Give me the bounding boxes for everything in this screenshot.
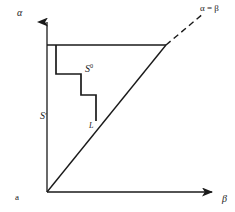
outer-region-superscript: 0: [90, 62, 93, 69]
staircase-boundary: [56, 45, 96, 121]
origin-label: a: [15, 193, 19, 202]
boundary-point-label: L: [89, 122, 93, 130]
outer-region-label: S0: [85, 63, 93, 74]
diagonal-line-solid: [47, 45, 166, 192]
diagram-canvas: [0, 0, 235, 212]
diagonal-line-label: α = β: [200, 4, 219, 13]
figure-region-diagram: α β a α = β S0 S′ L: [0, 0, 235, 212]
beta-axis-label: β: [222, 194, 227, 204]
inner-region-prime: ′: [45, 111, 47, 121]
inner-region-label: S′: [40, 111, 47, 121]
alpha-axis-label: α: [17, 8, 22, 18]
diagonal-line-dashed: [166, 13, 204, 45]
